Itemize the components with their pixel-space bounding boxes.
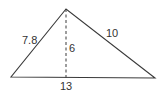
altitude-label: 6: [69, 42, 75, 54]
base-label: 13: [60, 80, 72, 92]
right-side-label: 10: [106, 27, 118, 39]
triangle-diagram: 7.8 10 6 13: [0, 0, 164, 97]
left-side-label: 7.8: [22, 34, 37, 46]
